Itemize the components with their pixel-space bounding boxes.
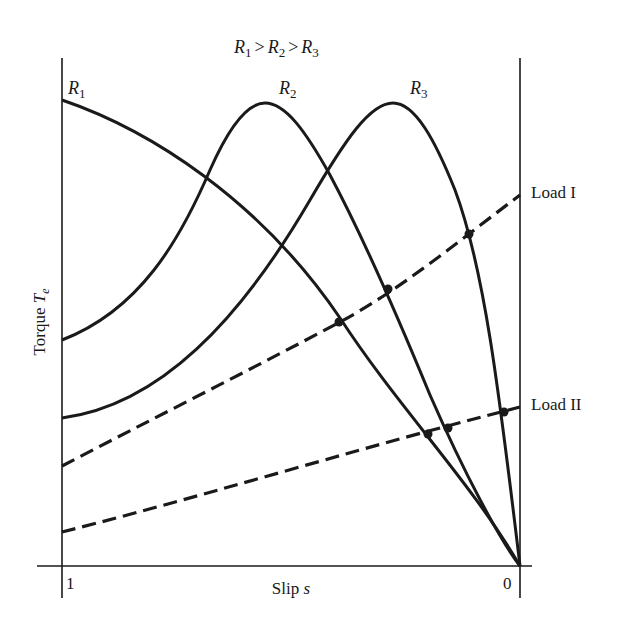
x-tick-left: 1: [66, 574, 75, 593]
operating-point-r1-load1: [335, 318, 344, 327]
curve-r1: [62, 100, 520, 566]
x-tick-right: 0: [503, 574, 512, 593]
label-load-1: Load I: [531, 183, 576, 202]
label-r1: R1: [67, 78, 86, 101]
operating-point-r3-load2: [500, 408, 509, 417]
curve-r2: [62, 103, 520, 566]
curve-r3: [62, 103, 520, 566]
operating-point-r3-load1: [465, 230, 474, 239]
y-axis-label: Torque Te: [30, 288, 52, 356]
torque-slip-diagram: R1>R2>R3 Torque Te Slip s 1 0 R1 R2 R3 L…: [0, 0, 622, 626]
operating-point-r2-load1: [384, 285, 393, 294]
operating-point-r1-load2: [424, 430, 433, 439]
label-r2: R2: [278, 78, 297, 101]
chart-title: R1>R2>R3: [233, 37, 319, 60]
x-axis-label: Slip s: [272, 579, 311, 598]
label-r3: R3: [409, 78, 428, 101]
label-load-2: Load II: [531, 395, 582, 414]
operating-point-r2-load2: [444, 424, 453, 433]
